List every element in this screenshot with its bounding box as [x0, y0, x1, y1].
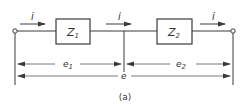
voltage-e2-label: e2 — [176, 59, 187, 71]
left-terminal — [13, 29, 17, 33]
series-impedance-diagram: Z1 Z2 i i i e1 e2 e (a) — [0, 0, 250, 104]
impedance-z1: Z1 — [56, 19, 90, 44]
current-label-2: i — [118, 11, 121, 22]
right-terminal — [231, 29, 235, 33]
figure-caption: (a) — [119, 92, 132, 102]
current-label-1: i — [31, 11, 34, 22]
voltage-e-label: e — [121, 71, 127, 81]
current-label-3: i — [212, 11, 215, 22]
impedance-z2: Z2 — [157, 19, 192, 44]
voltage-e1-label: e1 — [63, 59, 73, 71]
